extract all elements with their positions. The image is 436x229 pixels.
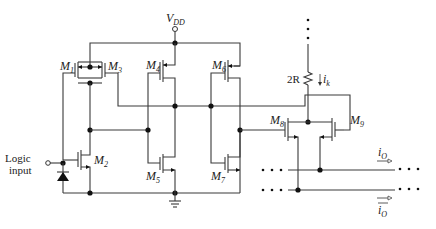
m8-label: M8 — [269, 113, 284, 129]
resistor-label: 2R — [287, 73, 301, 85]
m7-label: M7 — [210, 169, 226, 185]
output-bar-arrow-icon — [388, 196, 392, 200]
diode-icon — [57, 172, 69, 181]
output-label: iO — [378, 145, 387, 161]
m5-label: M5 — [145, 169, 160, 185]
circuit-svg: VDD M1 M3 M4 M2 Logic input — [0, 0, 436, 229]
vdd-label: VDD — [166, 11, 185, 27]
logic-input-label-2: input — [9, 164, 32, 176]
logic-input-label-1: Logic — [5, 152, 31, 164]
m2-label: M2 — [93, 153, 108, 169]
vdd-terminal — [173, 27, 178, 32]
m1-label: M1 — [59, 59, 74, 75]
output-bar-label: iO — [378, 203, 387, 219]
current-arrow-icon — [318, 82, 322, 86]
circuit-diagram: VDD M1 M3 M4 M2 Logic input — [0, 0, 436, 229]
logic-input-terminal — [46, 161, 51, 166]
m3-label: M3 — [107, 59, 122, 75]
current-label: ik — [323, 72, 330, 88]
resistor-icon — [304, 72, 312, 85]
m4-label: M4 — [145, 58, 160, 74]
output-arrow-icon — [388, 159, 392, 163]
m9-label: M9 — [349, 113, 364, 129]
m6-label: M6 — [211, 58, 226, 74]
